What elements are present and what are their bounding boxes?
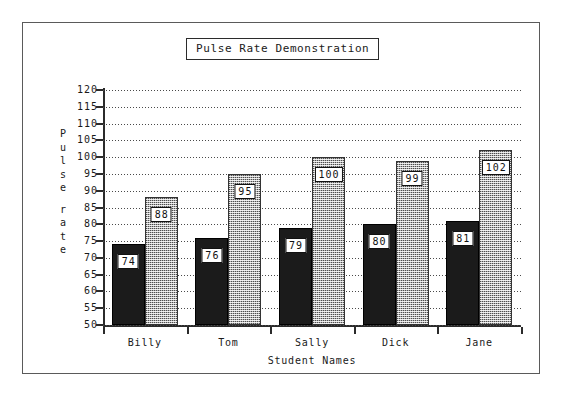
gridline [103, 140, 521, 141]
bar-value-label: 99 [402, 171, 423, 186]
y-axis-tick [96, 106, 103, 108]
y-axis-tick [96, 223, 103, 225]
x-axis-category-label: Dick [382, 337, 409, 349]
bar: 88 [145, 197, 178, 325]
bar: 80 [363, 224, 396, 325]
gridline [103, 124, 521, 125]
y-axis-tick-label: 120 [77, 85, 98, 95]
x-axis-category-label: Jane [466, 337, 493, 349]
y-axis-tick [96, 274, 103, 276]
x-axis-category-label: Sally [295, 337, 329, 349]
chart-title: Pulse Rate Demonstration [196, 42, 369, 55]
gridline [103, 107, 521, 108]
x-axis-category-label: Tom [218, 337, 238, 349]
bar-value-label: 80 [369, 234, 390, 249]
y-axis-tick [96, 240, 103, 242]
y-axis-tick [96, 123, 103, 125]
x-axis-tick [521, 327, 523, 334]
y-axis-tick [96, 89, 103, 91]
y-axis-tick-label: 115 [77, 102, 98, 112]
x-axis-tick [187, 327, 189, 334]
gridline [103, 325, 521, 326]
plot-area: 7488769579100809981102 [103, 90, 521, 325]
bar-value-label: 76 [201, 248, 222, 263]
bar: 74 [112, 244, 145, 325]
y-axis-tick [96, 139, 103, 141]
y-axis-tick [96, 156, 103, 158]
bar: 76 [195, 238, 228, 325]
bar-value-label: 95 [234, 184, 255, 199]
page-canvas: Pulse Rate Demonstration Pulserate 50556… [0, 0, 565, 406]
y-axis-tick [96, 257, 103, 259]
bar: 95 [228, 174, 261, 325]
chart-title-box: Pulse Rate Demonstration [186, 38, 379, 60]
x-axis-tick [437, 327, 439, 334]
y-axis-tick-label: 100 [77, 152, 98, 162]
bar-value-label: 79 [285, 238, 306, 253]
bar-value-label: 74 [118, 254, 139, 269]
bar: 100 [312, 157, 345, 325]
bar-value-label: 102 [482, 160, 510, 175]
y-axis-tick [96, 307, 103, 309]
bar-value-label: 81 [452, 231, 473, 246]
y-axis-tick-labels: 50556065707580859095100105110115120 [58, 90, 98, 325]
x-axis-tick [270, 327, 272, 334]
bar: 99 [396, 161, 429, 326]
y-axis-tick [96, 207, 103, 209]
x-axis-tick [354, 327, 356, 334]
x-axis-category-label: Billy [128, 337, 162, 349]
bar: 81 [446, 221, 479, 325]
x-axis-tick [103, 327, 105, 334]
bar: 102 [479, 150, 512, 325]
bar: 79 [279, 228, 312, 325]
y-axis-tick [96, 190, 103, 192]
y-axis-tick-label: 110 [77, 119, 98, 129]
x-axis-title: Student Names [103, 355, 521, 367]
y-axis-tick [96, 290, 103, 292]
gridline [103, 90, 521, 91]
bar-value-label: 88 [151, 207, 172, 222]
y-axis-tick [96, 324, 103, 326]
y-axis-tick-label: 105 [77, 135, 98, 145]
y-axis-tick [96, 173, 103, 175]
bar-value-label: 100 [314, 167, 342, 182]
